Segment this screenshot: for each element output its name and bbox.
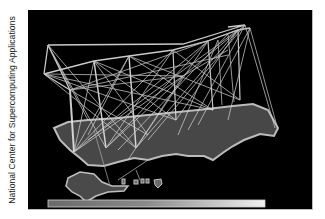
alaska-shape bbox=[66, 172, 128, 202]
credit-text: National Center for Supercomputing Appli… bbox=[7, 16, 17, 204]
credit-label: National Center for Supercomputing Appli… bbox=[4, 10, 20, 209]
network-map-visualization bbox=[28, 10, 312, 209]
visualization-panel bbox=[28, 10, 313, 210]
gradient-legend-bar bbox=[48, 200, 265, 207]
